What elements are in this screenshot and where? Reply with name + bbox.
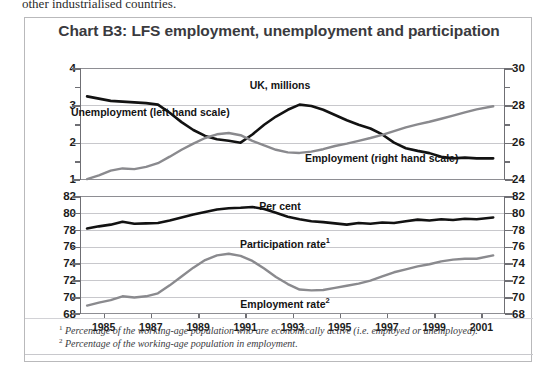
employment-rate-label-text: Employment rate (240, 298, 325, 310)
chart-title: Chart B3: LFS employment, unemployment a… (25, 22, 533, 40)
footnote-1-text: Percentage of the working-age population… (65, 325, 478, 336)
footnote-divider (25, 318, 533, 319)
lower-right-tick-72 (505, 280, 513, 282)
lower-right-tick-68 (505, 313, 513, 315)
upper-right-tick-28 (505, 105, 513, 107)
employment-label-line1: Employment (right hand scale) (305, 152, 458, 164)
employment-rate-label: Employment rate2 (220, 295, 350, 310)
lower-ytick-label-right-76: 76 (512, 241, 542, 253)
lower-right-tick-80 (505, 213, 513, 215)
upper-left-minortick-2-5 (75, 124, 80, 126)
participation-rate-footnote-marker: 1 (326, 236, 330, 245)
running-body-text: other industrialised countries. (22, 0, 442, 8)
upper-right-minortick-27 (505, 124, 510, 126)
participation-rate-label: Participation rate1 (220, 235, 350, 250)
lower-left-tick-68 (72, 313, 80, 315)
employment-series-label: Employment (right hand scale) (305, 152, 435, 164)
footnote-2-marker: 2 (59, 337, 63, 345)
upper-ytick-label-30: 30 (512, 63, 542, 75)
employment-rate-footnote-marker: 2 (326, 296, 330, 305)
lower-ytick-label-right-78: 78 (512, 225, 542, 237)
upper-ytick-label-28: 28 (512, 100, 542, 112)
lower-left-tick-78 (72, 230, 80, 232)
upper-ytick-label-26: 26 (512, 137, 542, 149)
upper-right-minortick-29 (505, 87, 510, 89)
footnote-1-marker: 1 (59, 324, 63, 332)
upper-right-tick-24 (505, 179, 513, 181)
upper-left-minortick-3-5 (75, 87, 80, 89)
lower-left-tick-70 (72, 297, 80, 299)
lower-ytick-label-right-72: 72 (512, 275, 542, 287)
lower-right-tick-74 (505, 263, 513, 265)
footnote-2-text: Percentage of the working-age population… (65, 338, 298, 349)
upper-left-tick-2 (72, 143, 80, 145)
lower-right-tick-82 (505, 196, 513, 198)
chart-figure: Chart B3: LFS employment, unemployment a… (24, 17, 532, 362)
lower-left-tick-82 (72, 196, 80, 198)
upper-right-tick-26 (505, 143, 513, 145)
lower-right-tick-76 (505, 247, 513, 249)
lower-ytick-label-right-80: 80 (512, 208, 542, 220)
footnote-1: 1 Percentage of the working-age populati… (59, 324, 478, 336)
lower-units-label: Per cent (240, 200, 320, 212)
lower-left-tick-74 (72, 263, 80, 265)
upper-right-tick-30 (505, 68, 513, 70)
upper-units-label: UK, millions (230, 79, 330, 91)
participation-rate-label-text: Participation rate (240, 238, 326, 250)
upper-left-tick-4 (72, 68, 80, 70)
lower-right-tick-78 (505, 230, 513, 232)
lower-ytick-label-right-70: 70 (512, 292, 542, 304)
upper-left-tick-1 (72, 179, 80, 181)
figure-bottom-rule (25, 354, 533, 355)
lower-left-tick-80 (72, 213, 80, 215)
lower-left-tick-72 (72, 280, 80, 282)
lower-ytick-label-right-82: 82 (512, 191, 542, 203)
upper-ytick-label-24: 24 (512, 174, 542, 186)
lower-ytick-label-right-74: 74 (512, 258, 542, 270)
lower-left-tick-76 (72, 247, 80, 249)
upper-right-minortick-25 (505, 161, 510, 163)
unemployment-label-line1: Unemployment (left hand scale) (71, 106, 230, 118)
lower-right-tick-70 (505, 297, 513, 299)
unemployment-series-label: Unemployment (left hand scale) (71, 106, 230, 118)
footnote-2: 2 Percentage of the working-age populati… (59, 337, 298, 349)
page-root: other industrialised countries. Chart B3… (0, 0, 558, 376)
upper-left-minortick-1-5 (75, 161, 80, 163)
